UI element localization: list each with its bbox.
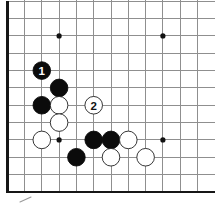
white-stone <box>120 131 138 149</box>
white-stone <box>102 148 120 166</box>
star-point <box>57 33 62 38</box>
white-stone <box>50 96 68 114</box>
star-point <box>160 137 165 142</box>
white-stone <box>137 148 155 166</box>
white-stone <box>33 131 51 149</box>
black-stone <box>85 131 103 149</box>
star-point <box>160 33 165 38</box>
go-diagram: 12 <box>0 0 215 205</box>
white-stone <box>50 114 68 132</box>
margin-mark <box>20 197 31 202</box>
black-stone <box>50 79 68 97</box>
black-stone <box>68 148 86 166</box>
go-board-svg: 12 <box>0 0 215 205</box>
black-stone <box>102 131 120 149</box>
black-stone <box>33 96 51 114</box>
stone-label: 2 <box>90 100 96 112</box>
stone-label: 1 <box>39 65 46 77</box>
star-point <box>57 137 62 142</box>
